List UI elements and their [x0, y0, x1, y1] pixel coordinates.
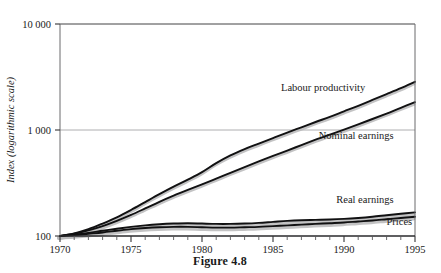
y-tick-label-100: 100: [35, 231, 51, 242]
series-label-labour-productivity: Labour productivity: [281, 82, 366, 93]
series-annotations: Labour productivityNominal earningsReal …: [281, 82, 412, 227]
y-axis-tick-labels: 1001 00010 000: [22, 19, 51, 242]
series-shadow-layer: [59, 84, 414, 238]
grid-layer: [60, 24, 415, 130]
series-label-nominal-earnings: Nominal earnings: [319, 130, 394, 141]
series-line-nominal-earnings: [60, 102, 415, 236]
y-axis-title: Index (logarithmic scale): [5, 76, 17, 184]
line-chart: 1001 00010 000 197019751980198519901995 …: [0, 0, 441, 273]
figure-container: 1001 00010 000 197019751980198519901995 …: [0, 0, 441, 273]
series-label-real-earnings: Real earnings: [336, 194, 393, 205]
figure-caption: Figure 4.8: [193, 254, 247, 268]
y-tick-label-1000: 1 000: [27, 125, 51, 136]
series-label-prices: Prices: [386, 216, 412, 227]
series-layer: [60, 82, 415, 236]
series-line-labour-productivity: [60, 82, 415, 236]
x-tick-label-1970: 1970: [50, 244, 71, 255]
x-tick-label-1995: 1995: [405, 244, 426, 255]
y-tick-label-10000: 10 000: [22, 19, 51, 30]
series-shadow-0: [59, 84, 414, 238]
x-tick-label-1975: 1975: [121, 244, 142, 255]
x-tick-label-1990: 1990: [334, 244, 355, 255]
x-tick-label-1985: 1985: [263, 244, 284, 255]
